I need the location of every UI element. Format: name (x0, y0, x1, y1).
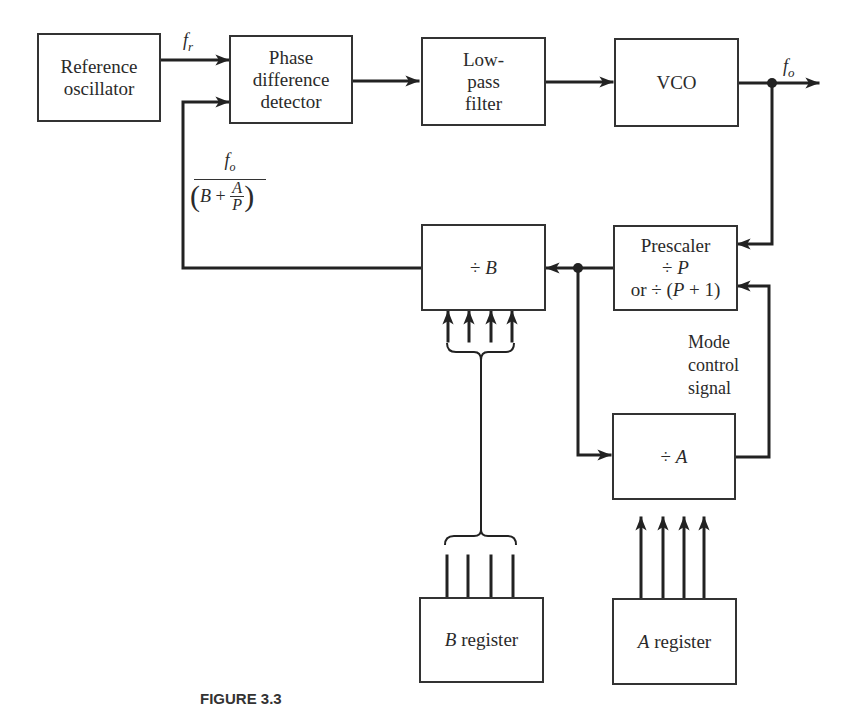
phase-detector-block: Phasedifferencedetector (229, 35, 353, 124)
fr-label: fr (183, 30, 193, 57)
feedback-denominator: ( B + A P ) (190, 180, 270, 213)
r-subscript: r (188, 39, 193, 54)
prescaler-label: Prescaler (631, 235, 721, 257)
figure-caption: FIGURE 3.3 (200, 690, 282, 704)
prescaler-or-text: or ÷ ( (631, 279, 673, 300)
o-subscript: o (230, 160, 236, 174)
paren-open: ( (190, 181, 200, 211)
lpf-label: Low- (463, 49, 504, 71)
junction-dot-prescaler (573, 263, 583, 273)
reference-oscillator-label-2: oscillator (61, 78, 138, 100)
low-pass-filter-block: Low-passfilter (421, 37, 546, 126)
divide-symbol: ÷ (470, 257, 480, 278)
register-label: register (649, 631, 711, 652)
divide-symbol: ÷ (661, 446, 671, 467)
var-b: B (200, 186, 211, 206)
divide-symbol: ÷ (662, 257, 672, 278)
mode-control-line2: control (688, 354, 739, 377)
prescaler-plus-one: + 1) (684, 279, 720, 300)
brace-bottom (445, 530, 516, 545)
wire-fo-prescaler (738, 83, 772, 244)
var-a: A (676, 446, 688, 467)
wire-tap-a (578, 268, 610, 455)
reference-oscillator-label: Reference (61, 56, 138, 78)
brace-top (447, 343, 514, 360)
a-over-p: A P (230, 180, 244, 213)
wire-mode-control (736, 286, 769, 457)
plus-sign: + (211, 186, 230, 206)
var-b: B (485, 257, 497, 278)
paren-close: ) (244, 181, 254, 211)
var-p: P (232, 197, 242, 213)
prescaler-divide-p1: or ÷ (P + 1) (631, 279, 721, 301)
feedback-frequency-label: fo ( B + A P ) (190, 150, 270, 213)
fo-label: fo (783, 56, 795, 83)
vco-block: VCO (614, 38, 739, 127)
prescaler-block: Prescaler ÷ P or ÷ (P + 1) (613, 225, 738, 311)
mode-control-line3: signal (688, 377, 739, 400)
var-a: A (638, 631, 650, 652)
reference-oscillator-block: Referenceoscillator (37, 33, 161, 122)
var-b: B (445, 629, 457, 650)
o-subscript: o (788, 65, 795, 80)
mode-control-label: Mode control signal (688, 331, 739, 400)
phase-detector-label: Phase (253, 47, 330, 69)
mode-control-line1: Mode (688, 331, 739, 354)
b-register-block: B register (419, 597, 544, 683)
divide-a-block: ÷ A (612, 413, 736, 500)
var-a: A (232, 180, 242, 196)
phase-detector-label-3: detector (253, 91, 330, 113)
register-label: register (456, 629, 518, 650)
phase-detector-label-2: difference (253, 69, 330, 91)
vco-label: VCO (656, 72, 696, 94)
divide-b-block: ÷ B (421, 224, 546, 311)
var-p: P (673, 279, 685, 300)
lpf-label-3: filter (463, 93, 504, 115)
junction-dot-fo (767, 78, 777, 88)
a-register-block: A register (612, 598, 737, 685)
lpf-label-2: pass (463, 71, 504, 93)
var-p: P (677, 257, 689, 278)
prescaler-divide-p: ÷ P (631, 257, 721, 279)
feedback-numerator: fo (190, 150, 270, 177)
